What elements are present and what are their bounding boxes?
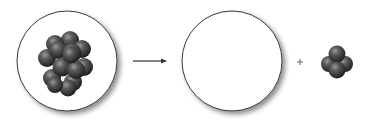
plus-sign (297, 59, 303, 65)
reaction-arrow (133, 59, 167, 64)
daughter-nucleus (182, 11, 282, 111)
decay-diagram (0, 0, 369, 123)
daughter-boundary-circle (182, 11, 282, 111)
parent-nucleus (17, 11, 117, 111)
emitted-particle-cluster (321, 46, 353, 79)
diagram-canvas (0, 0, 369, 123)
